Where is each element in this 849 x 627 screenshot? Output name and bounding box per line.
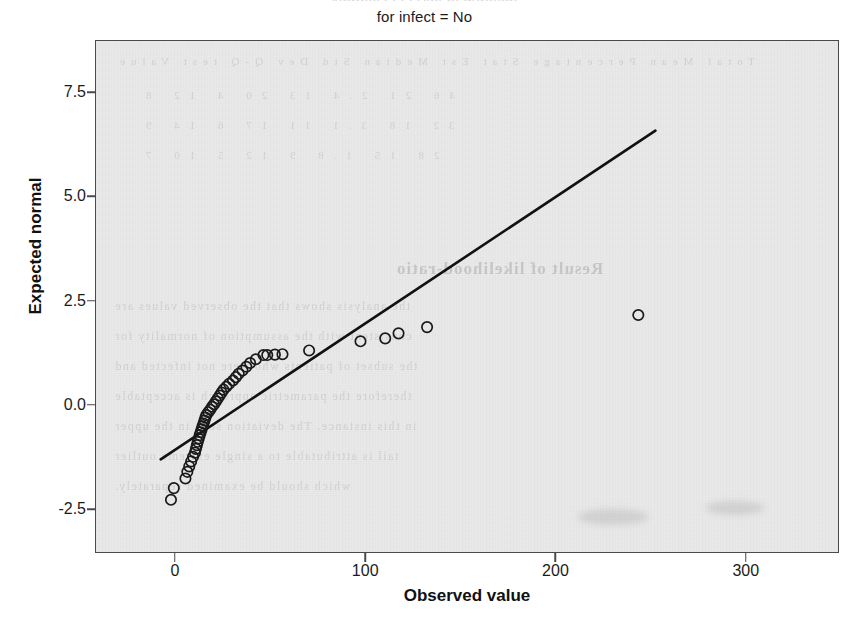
- data-point: [393, 328, 403, 338]
- y-axis-tick-mark: [87, 300, 96, 302]
- y-axis-tick-mark: [87, 508, 96, 510]
- data-point: [169, 483, 179, 493]
- x-axis-label: Observed value: [95, 586, 839, 606]
- ghost-title-fragment: Normal Q-Q Plot of duration: [0, 0, 849, 1]
- x-axis-tick-label: 200: [542, 562, 569, 580]
- x-axis-tick-label: 300: [732, 562, 759, 580]
- x-axis-tick-mark: [364, 553, 366, 562]
- y-axis-tick-mark: [87, 404, 96, 406]
- data-point: [277, 349, 287, 359]
- y-axis-tick-group: -2.50.02.55.07.5: [8, 0, 86, 627]
- data-point: [633, 310, 643, 320]
- x-axis-tick-mark: [745, 553, 747, 562]
- y-axis-tick-label: 7.5: [16, 83, 86, 101]
- x-axis-tick-mark: [174, 553, 176, 562]
- data-point: [166, 495, 176, 505]
- plot-panel: Total Mean Percentage Stat Est Median St…: [95, 40, 839, 553]
- x-axis-tick-mark: [555, 553, 557, 562]
- data-point: [304, 345, 314, 355]
- qq-plot-figure: Normal Q-Q Plot of duration for infect =…: [0, 0, 849, 627]
- data-point: [422, 322, 432, 332]
- chart-subtitle: for infect = No: [0, 8, 849, 25]
- y-axis-tick-label: -2.5: [16, 500, 86, 518]
- y-axis-tick-label: 0.0: [16, 396, 86, 414]
- x-axis-tick-label: 0: [170, 562, 179, 580]
- plot-drawing-area: [96, 41, 839, 553]
- x-axis-tick-label: 100: [352, 562, 379, 580]
- reference-line: [161, 131, 656, 460]
- y-axis-label: Expected normal: [26, 146, 46, 346]
- y-axis-tick-mark: [87, 91, 96, 93]
- y-axis-tick-mark: [87, 196, 96, 198]
- data-point: [380, 333, 390, 343]
- data-point: [180, 473, 190, 483]
- data-point: [355, 336, 365, 346]
